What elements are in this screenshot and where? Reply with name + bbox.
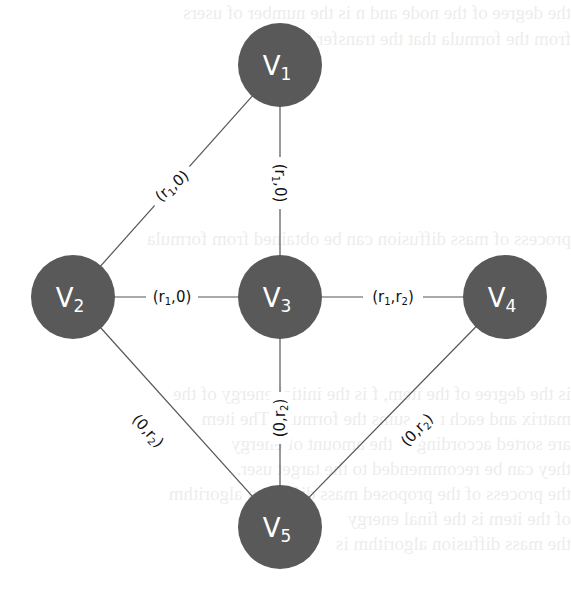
node-v4: V4 <box>463 255 547 339</box>
edge-v4-v5 <box>280 297 505 527</box>
edge-label-v1-v3: (r1,0) <box>269 157 291 209</box>
svg-text:(r1,r2): (r1,r2) <box>372 288 414 307</box>
svg-text:(0,r2): (0,r2) <box>271 399 290 438</box>
edge-v2-v5 <box>73 297 280 527</box>
node-v2: V2 <box>31 255 115 339</box>
svg-text:(r1,0): (r1,0) <box>270 164 289 203</box>
edge-label-v4-v5: (0,r2) <box>391 404 443 457</box>
edge-label-v3-v4: (r1,r2) <box>363 286 423 308</box>
svg-text:(r1,0): (r1,0) <box>153 288 192 307</box>
node-v3: V3 <box>238 255 322 339</box>
graph-diagram: (r1,0) (r1,0) (r1,0) (r1,r2) (0,r2) (0,r… <box>0 0 571 595</box>
edge-label-v2-v5: (0,r2) <box>122 404 173 457</box>
node-v5: V5 <box>238 485 322 569</box>
edge-label-v1-v2: (r1,0) <box>145 161 199 212</box>
edge-label-v2-v3: (r1,0) <box>146 286 198 308</box>
edge-label-v3-v5: (0,r2) <box>269 392 291 444</box>
node-v1: V1 <box>238 23 322 107</box>
